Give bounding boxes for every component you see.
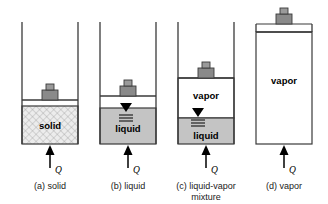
panel-b-weight-cap-icon — [124, 80, 132, 86]
panel-d-up-arrow-icon — [280, 145, 289, 155]
diagram-canvas: solid Q (a) solid liquid — [0, 0, 328, 204]
phase-change-diagram: solid Q (a) solid liquid — [0, 0, 328, 204]
panel-b-liquid: liquid Q (b) liquid — [100, 22, 156, 191]
panel-c-region-label-vapor: vapor — [193, 90, 219, 101]
panel-a-caption: (a) solid — [34, 181, 66, 191]
panel-c-region-label-liquid: liquid — [193, 130, 219, 141]
panel-b-up-arrow-icon — [124, 145, 133, 155]
panel-c-caption-line2: mixture — [191, 192, 221, 202]
panel-d-heat-label: Q — [289, 165, 296, 175]
panel-d-vapor: vapor Q (d) vapor — [256, 8, 312, 191]
panel-b-region-label-liquid: liquid — [115, 123, 141, 134]
panel-a-weight-cap-icon — [46, 84, 54, 90]
panel-d-weight-icon — [276, 14, 292, 24]
panel-c-heat-label: Q — [211, 165, 218, 175]
panel-c-liquid-vapor-mixture: vapor liquid Q (c) liquid-vapor mixture — [176, 22, 236, 202]
panel-d-caption: (d) vapor — [266, 181, 302, 191]
panel-d-region-label-vapor: vapor — [271, 75, 297, 86]
panel-a-up-arrow-icon — [46, 145, 55, 155]
panel-b-heat-label: Q — [133, 165, 140, 175]
panel-d-weight-cap-icon — [280, 8, 288, 14]
panel-c-up-arrow-icon — [202, 145, 211, 155]
panel-b-weight-icon — [120, 86, 136, 96]
panel-a-weight-icon — [42, 90, 58, 100]
panel-d-vapor-region — [256, 32, 312, 144]
panel-b-caption: (b) liquid — [111, 181, 146, 191]
panel-a-heat-label: Q — [55, 165, 62, 175]
panel-a-solid: solid Q (a) solid — [22, 22, 78, 191]
panel-c-weight-cap-icon — [202, 62, 210, 68]
panel-c-weight-icon — [198, 68, 214, 78]
panel-a-region-label-solid: solid — [39, 120, 61, 131]
panel-c-caption-line1: (c) liquid-vapor — [176, 181, 236, 191]
